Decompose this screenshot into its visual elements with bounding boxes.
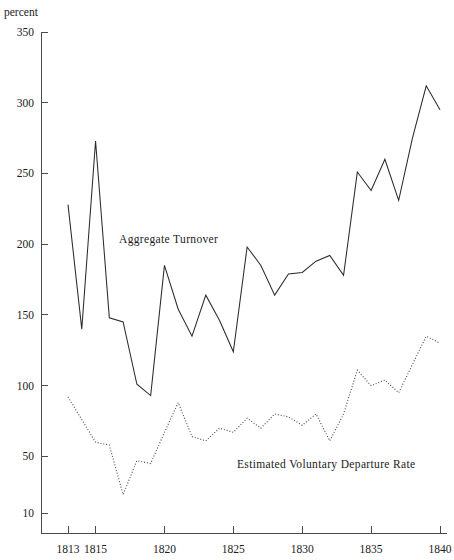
x-tick-label-1840: 1840	[429, 543, 452, 555]
y-tick-label-150: 150	[17, 309, 35, 321]
y-tick-label-200: 200	[17, 238, 35, 250]
y-tick-marks	[41, 32, 48, 513]
y-tick-labels: 3503002502001501005010	[17, 26, 35, 519]
annotation-departure-rate: Estimated Voluntary Departure Rate	[237, 458, 416, 471]
x-tick-labels: 1813181518201825183018351840	[57, 543, 452, 555]
line-chart: 3503002502001501005010 18131815182018251…	[0, 0, 454, 560]
y-axis-unit-label: percent	[4, 6, 39, 19]
x-tick-label-1825: 1825	[222, 543, 245, 555]
y-tick-label-250: 250	[17, 167, 35, 179]
y-tick-label-10: 10	[23, 507, 35, 519]
series-departure-rate-line	[68, 336, 440, 494]
y-tick-label-300: 300	[17, 97, 35, 109]
annotation-aggregate-turnover: Aggregate Turnover	[119, 233, 218, 246]
y-tick-label-350: 350	[17, 26, 35, 38]
x-tick-label-1820: 1820	[153, 543, 176, 555]
y-tick-label-50: 50	[23, 450, 35, 462]
y-tick-label-100: 100	[17, 380, 35, 392]
x-tick-label-1835: 1835	[360, 543, 383, 555]
x-tick-label-1830: 1830	[291, 543, 314, 555]
x-tick-marks	[68, 526, 440, 533]
chart-figure: 3503002502001501005010 18131815182018251…	[0, 0, 454, 560]
x-tick-label-1815: 1815	[84, 543, 107, 555]
x-tick-label-1813: 1813	[57, 543, 80, 555]
